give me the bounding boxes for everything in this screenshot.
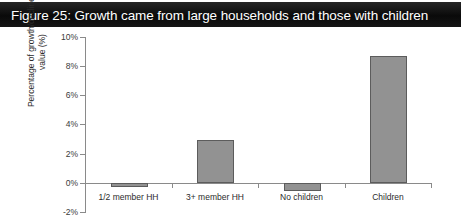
y-tick-label-10: 10%	[48, 32, 78, 42]
bar-3-plus-member-hh[interactable]	[197, 140, 234, 183]
x-tick-mark-0	[85, 183, 86, 188]
y-tick-mark-neg2	[80, 212, 85, 213]
bar-chart: Percentage of growth/decline value (%) 1…	[0, 0, 461, 222]
y-tick-mark-10	[80, 37, 85, 38]
y-tick-label-2: 2%	[48, 149, 78, 159]
x-category-label-2: 3+ member HH	[172, 192, 258, 202]
x-category-label-3: No children	[258, 192, 345, 202]
y-tick-mark-4	[80, 124, 85, 125]
bar-no-children[interactable]	[284, 183, 321, 191]
x-tick-mark-3	[345, 183, 346, 188]
figure-container: Figure 25: Growth came from large househ…	[0, 0, 461, 222]
y-axis-title-line2: value (%)	[37, 0, 48, 137]
x-tick-mark-2	[258, 183, 259, 188]
y-tick-mark-8	[80, 66, 85, 67]
y-tick-label-4: 4%	[48, 119, 78, 129]
bar-1-2-member-hh[interactable]	[111, 183, 148, 187]
y-axis-title: Percentage of growth/decline value (%)	[26, 0, 50, 137]
y-tick-label-neg2: -2%	[48, 207, 78, 217]
y-tick-label-0: 0%	[48, 178, 78, 188]
y-tick-label-8: 8%	[48, 61, 78, 71]
y-axis-title-line1: Percentage of growth/decline	[26, 0, 37, 137]
x-tick-mark-4	[431, 183, 432, 188]
y-tick-label-6: 6%	[48, 90, 78, 100]
y-tick-mark-6	[80, 95, 85, 96]
x-category-label-4: Children	[345, 192, 431, 202]
x-tick-mark-1	[172, 183, 173, 188]
y-tick-mark-2	[80, 154, 85, 155]
x-category-label-1: 1/2 member HH	[85, 192, 172, 202]
bar-children[interactable]	[370, 56, 407, 183]
